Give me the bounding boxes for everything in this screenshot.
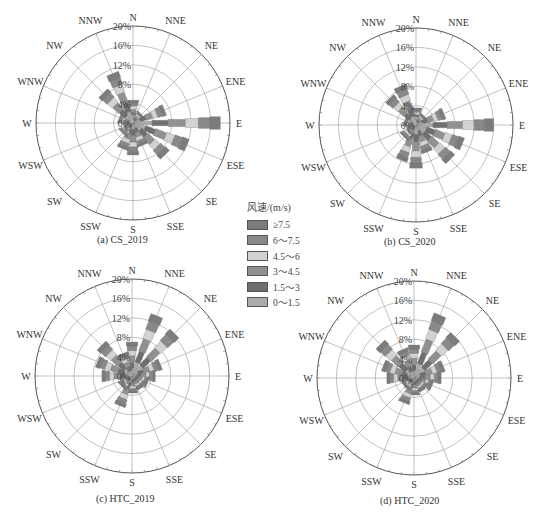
svg-text:WSW: WSW <box>299 415 324 426</box>
svg-text:WNW: WNW <box>16 329 43 340</box>
svg-text:8%: 8% <box>399 334 412 345</box>
legend-label: 1.5～3 <box>273 280 300 294</box>
svg-text:NNE: NNE <box>448 17 469 28</box>
svg-text:0%: 0% <box>399 373 412 384</box>
svg-text:NE: NE <box>204 293 217 304</box>
svg-text:16%: 16% <box>396 42 414 53</box>
svg-text:SSE: SSE <box>448 476 465 487</box>
svg-text:0%: 0% <box>117 371 130 382</box>
legend-item: 1.5～3 <box>247 279 332 295</box>
svg-text:SW: SW <box>328 451 344 462</box>
svg-text:E: E <box>517 373 523 384</box>
svg-text:20%: 20% <box>396 23 414 34</box>
svg-text:SW: SW <box>46 449 62 460</box>
svg-text:N: N <box>410 267 417 278</box>
legend-swatch <box>247 220 268 230</box>
svg-text:0%: 0% <box>401 120 414 131</box>
svg-text:ESE: ESE <box>508 415 526 426</box>
legend-item: ≥7.5 <box>247 217 332 233</box>
legend-swatch <box>247 235 268 245</box>
svg-text:E: E <box>235 371 241 382</box>
wind-rose-plot: 0%4%8%12%16%20%NNNENEENEEESESESSESSSWSWW… <box>0 0 268 261</box>
legend-label: 4.5～6 <box>273 249 300 263</box>
legend-item: 0～1.5 <box>247 295 332 311</box>
svg-text:NW: NW <box>45 293 62 304</box>
wind-speed-legend: 风速/(m/s) ≥7.5 6～7.5 4.5～6 3～4.5 1.5～3 0～… <box>247 199 332 310</box>
svg-text:12%: 12% <box>394 315 412 326</box>
svg-text:SSW: SSW <box>363 223 384 234</box>
legend-swatch <box>247 282 268 292</box>
svg-text:ESE: ESE <box>226 413 244 424</box>
svg-text:WNW: WNW <box>298 331 325 342</box>
svg-text:4%: 4% <box>401 101 414 112</box>
svg-text:8%: 8% <box>117 332 130 343</box>
svg-text:ENE: ENE <box>507 331 526 342</box>
svg-text:S: S <box>129 477 135 488</box>
svg-text:NNW: NNW <box>360 270 384 281</box>
caption-htc-2020: (d) HTC_2020 <box>380 495 439 506</box>
svg-text:ENE: ENE <box>509 78 528 89</box>
svg-text:SE: SE <box>205 449 217 460</box>
svg-text:NE: NE <box>488 42 501 53</box>
svg-text:20%: 20% <box>394 276 412 287</box>
svg-text:12%: 12% <box>112 313 130 324</box>
svg-text:WSW: WSW <box>17 413 42 424</box>
svg-text:SSE: SSE <box>450 223 467 234</box>
svg-text:E: E <box>519 120 525 131</box>
legend-swatch <box>247 266 268 276</box>
legend-item: 3～4.5 <box>247 264 332 280</box>
svg-text:SE: SE <box>487 451 499 462</box>
legend-swatch <box>247 297 268 307</box>
legend-item: 4.5～6 <box>247 248 332 264</box>
svg-text:4%: 4% <box>399 354 412 365</box>
legend-swatch <box>247 251 268 261</box>
wind-rose-htc-2020: 0%4%8%12%16%20%NNNENEENEEESESESSESSSWSWW… <box>0 0 268 261</box>
svg-text:NE: NE <box>486 295 499 306</box>
legend-title: 风速/(m/s) <box>247 199 332 214</box>
svg-text:20%: 20% <box>112 274 130 285</box>
svg-text:ENE: ENE <box>225 329 244 340</box>
svg-text:16%: 16% <box>394 295 412 306</box>
svg-text:NNW: NNW <box>78 268 102 279</box>
svg-text:SSW: SSW <box>361 476 382 487</box>
svg-text:SE: SE <box>489 198 501 209</box>
legend-label: ≥7.5 <box>273 220 290 230</box>
svg-text:8%: 8% <box>401 81 414 92</box>
svg-text:NW: NW <box>329 42 346 53</box>
legend-label: 3～4.5 <box>273 264 300 278</box>
svg-text:WSW: WSW <box>301 162 326 173</box>
svg-text:16%: 16% <box>112 293 130 304</box>
svg-text:W: W <box>305 120 315 131</box>
svg-text:SSW: SSW <box>79 474 100 485</box>
svg-text:SSE: SSE <box>166 474 183 485</box>
svg-text:NNE: NNE <box>164 268 185 279</box>
svg-text:NNW: NNW <box>362 17 386 28</box>
legend-label: 6～7.5 <box>273 233 300 247</box>
svg-text:WNW: WNW <box>300 78 327 89</box>
svg-text:N: N <box>128 265 135 276</box>
svg-text:N: N <box>412 14 419 25</box>
svg-text:12%: 12% <box>396 62 414 73</box>
svg-text:S: S <box>411 479 417 490</box>
legend-label: 0～1.5 <box>273 295 300 309</box>
caption-cs-2020: (b) CS_2020 <box>384 236 435 247</box>
svg-text:NNE: NNE <box>446 270 467 281</box>
caption-cs-2019: (a) CS_2019 <box>97 234 148 245</box>
caption-htc-2019: (c) HTC_2019 <box>96 493 155 504</box>
svg-text:ESE: ESE <box>510 162 528 173</box>
svg-text:4%: 4% <box>117 352 130 363</box>
svg-text:W: W <box>21 371 31 382</box>
svg-text:SW: SW <box>330 198 346 209</box>
svg-text:W: W <box>303 373 313 384</box>
legend-item: 6～7.5 <box>247 233 332 249</box>
